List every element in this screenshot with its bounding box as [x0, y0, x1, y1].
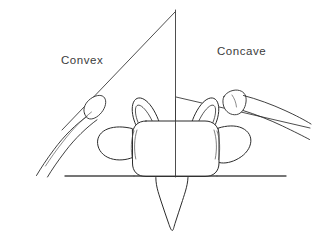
vertebra-diagram-svg [0, 0, 320, 245]
concave-label: Concave [217, 46, 266, 58]
vertebra [98, 98, 251, 231]
spinous-process [156, 174, 188, 231]
right-transverse-process [218, 126, 251, 163]
figure-root: Convex Concave [0, 0, 320, 245]
convex-rib-shaft-upper [37, 117, 88, 176]
convex-side-rib [37, 95, 106, 177]
left-transverse-process [98, 127, 133, 160]
convex-rib-slope-line [62, 12, 175, 130]
concave-side-rib-head [223, 90, 246, 115]
convex-rib-inner-line [46, 112, 92, 166]
concave-rib-shaft-upper [244, 96, 312, 125]
convex-label: Convex [61, 55, 103, 67]
